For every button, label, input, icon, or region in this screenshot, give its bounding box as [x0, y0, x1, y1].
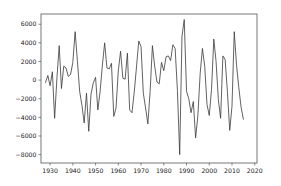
chart-figure: 6000400020000−2000−4000−6000−8000 193019… [0, 0, 281, 186]
y-tick-label: 0 [33, 76, 37, 83]
x-tick-label: 1990 [179, 167, 195, 174]
y-tick-label: −2000 [16, 95, 37, 102]
x-tick-label: 1950 [88, 167, 104, 174]
line-chart: 6000400020000−2000−4000−6000−8000 193019… [0, 0, 281, 186]
x-tick-label: 1980 [156, 167, 172, 174]
axes-background [41, 14, 257, 163]
x-tick-label: 2010 [224, 167, 240, 174]
y-tick-label: −4000 [16, 114, 37, 121]
y-tick-label: −8000 [16, 151, 37, 158]
x-tick-label: 1940 [65, 167, 81, 174]
y-tick-label: 2000 [21, 58, 37, 65]
y-tick-label: −6000 [16, 132, 37, 139]
x-tick-label: 2020 [247, 167, 263, 174]
y-tick-label: 4000 [21, 39, 37, 46]
x-tick-label: 1970 [133, 167, 149, 174]
x-tick-label: 2000 [201, 167, 217, 174]
x-tick-label: 1960 [110, 167, 126, 174]
x-tick-label: 1930 [42, 167, 58, 174]
y-tick-label: 6000 [21, 20, 37, 27]
